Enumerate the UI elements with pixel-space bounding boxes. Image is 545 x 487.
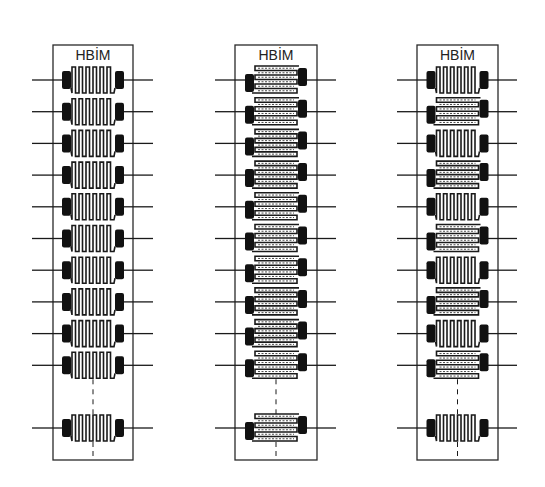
solder-pad-right [480, 71, 489, 89]
solder-pad-left [62, 261, 71, 279]
serpentine-grid [71, 352, 115, 378]
solder-pad-right [298, 322, 307, 340]
solder-pad-right [115, 166, 124, 184]
solder-pad-left [245, 201, 254, 219]
solder-pad-right [298, 68, 307, 86]
solder-pad-right [115, 356, 124, 374]
gauge-horizontal [215, 161, 336, 188]
gauge-horizontal [397, 225, 517, 252]
serpentine-grid [434, 161, 481, 188]
solder-pad-right [298, 163, 307, 181]
solder-pad-right [480, 134, 489, 152]
solder-pad-left [245, 264, 254, 282]
gauge-horizontal [215, 66, 336, 93]
solder-pad-left [62, 71, 71, 89]
serpentine-grid [436, 415, 480, 441]
serpentine-grid [71, 415, 115, 441]
serpentine-grid [252, 193, 299, 220]
serpentine-grid [71, 226, 115, 252]
serpentine-grid [71, 194, 115, 220]
gauge-horizontal [215, 256, 336, 283]
serpentine-grid [252, 414, 299, 441]
serpentine-grid [252, 161, 299, 188]
gauge-vertical [397, 194, 517, 220]
serpentine-grid [71, 99, 115, 125]
gauge-vertical [397, 415, 517, 441]
gauge-horizontal [215, 288, 336, 315]
solder-pad-left [62, 134, 71, 152]
gauge-horizontal [215, 129, 336, 156]
serpentine-grid [71, 289, 115, 315]
solder-pad-right [480, 261, 489, 279]
solder-pad-right [480, 290, 489, 308]
gauge-vertical [32, 99, 153, 125]
solder-pad-left [427, 261, 436, 279]
strip-label: HBİM [440, 46, 475, 63]
strip-label: HBİM [76, 46, 111, 63]
solder-pad-left [245, 169, 254, 187]
gauge-horizontal [215, 193, 336, 220]
gauge-horizontal [397, 98, 517, 125]
gauge-horizontal [215, 98, 336, 125]
solder-pad-left [427, 198, 436, 216]
solder-pad-left [245, 137, 254, 155]
solder-pad-right [480, 419, 489, 437]
serpentine-grid [252, 129, 299, 156]
solder-pad-left [245, 296, 254, 314]
gauge-vertical [32, 415, 153, 441]
gauge-vertical [32, 67, 153, 93]
gauge-horizontal [215, 414, 336, 441]
strain-gauge-diagram: HBİMHBİMHBİM [0, 0, 545, 487]
solder-pad-right [298, 227, 307, 245]
serpentine-grid [436, 67, 480, 93]
solder-pad-left [62, 419, 71, 437]
solder-pad-left [427, 106, 436, 124]
serpentine-grid [71, 321, 115, 347]
solder-pad-right [298, 100, 307, 118]
solder-pad-right [480, 100, 489, 118]
solder-pad-right [480, 325, 489, 343]
serpentine-grid [71, 257, 115, 283]
solder-pad-left [245, 359, 254, 377]
serpentine-grid [436, 130, 480, 156]
solder-pad-left [245, 233, 254, 251]
solder-pad-right [115, 325, 124, 343]
solder-pad-right [298, 258, 307, 276]
serpentine-grid [252, 98, 299, 125]
serpentine-grid [436, 257, 480, 283]
serpentine-grid [434, 225, 481, 252]
solder-pad-right [298, 195, 307, 213]
strip-2: HBİM [215, 45, 336, 460]
solder-pad-left [245, 106, 254, 124]
gauge-horizontal [215, 351, 336, 378]
solder-pad-left [62, 166, 71, 184]
solder-pad-left [427, 134, 436, 152]
gauge-vertical [32, 194, 153, 220]
serpentine-grid [252, 288, 299, 315]
serpentine-grid [71, 162, 115, 188]
gauge-vertical [397, 130, 517, 156]
gauge-vertical [32, 289, 153, 315]
strip-3: HBİM [397, 45, 517, 460]
gauge-vertical [397, 321, 517, 347]
solder-pad-left [427, 419, 436, 437]
solder-pad-right [115, 103, 124, 121]
gauge-vertical [32, 321, 153, 347]
solder-pad-left [62, 325, 71, 343]
solder-pad-right [298, 353, 307, 371]
solder-pad-left [427, 325, 436, 343]
gauge-horizontal [397, 161, 517, 188]
solder-pad-right [298, 290, 307, 308]
serpentine-grid [434, 288, 481, 315]
serpentine-grid [252, 256, 299, 283]
gauge-horizontal [215, 225, 336, 252]
gauge-vertical [32, 162, 153, 188]
solder-pad-left [427, 169, 436, 187]
gauge-vertical [32, 352, 153, 378]
solder-pad-right [480, 163, 489, 181]
strip-label: HBİM [259, 46, 294, 63]
serpentine-grid [252, 225, 299, 252]
gauge-vertical [32, 257, 153, 283]
gauge-vertical [32, 226, 153, 252]
solder-pad-right [480, 198, 489, 216]
